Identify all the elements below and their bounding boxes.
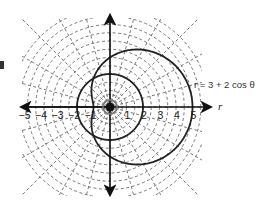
x-tick-label: −2: [68, 110, 80, 121]
x-tick-label: −4: [35, 110, 47, 121]
x-tick-label: 2: [141, 110, 147, 121]
x-tick-label: 5: [191, 110, 197, 121]
polar-grid: [0, 0, 242, 207]
r-axis-label: r: [218, 101, 222, 112]
grid-radial-line: [112, 111, 176, 207]
x-tick-label: 4: [174, 110, 180, 121]
grid-radial-line: [17, 111, 107, 201]
x-tick-label: −1: [85, 110, 97, 121]
cropped-label-fragment: [0, 61, 4, 69]
equation-label: r = 3 + 2 cos θ: [194, 80, 255, 90]
x-tick-label: 1: [125, 110, 131, 121]
x-tick-label: 3: [158, 110, 164, 121]
grid-radial-line: [17, 14, 107, 104]
polar-graph: [0, 0, 265, 207]
grid-radial-line: [44, 111, 108, 207]
x-tick-label: −5: [19, 110, 31, 121]
x-tick-label: −3: [52, 110, 64, 121]
